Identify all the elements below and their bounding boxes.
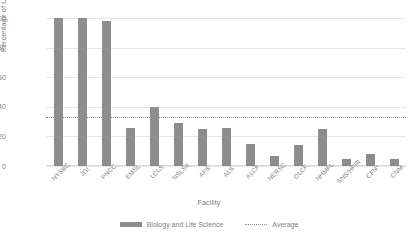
y-axis-tick-label: 0	[0, 163, 6, 170]
chart-legend: Biology and Life Science Average	[0, 221, 418, 228]
legend-item-average: Average	[245, 221, 298, 228]
bar-slot	[166, 18, 190, 166]
y-axis-tick-label: 80	[0, 44, 6, 51]
bar-als	[222, 128, 231, 166]
bar-lcls	[150, 107, 159, 166]
plot-area	[46, 18, 406, 166]
y-axis-tick-label: 40	[0, 103, 6, 110]
bar-slot	[238, 18, 262, 166]
bar-slot	[310, 18, 334, 166]
bar-pncc	[102, 21, 111, 166]
bar-slot	[46, 18, 70, 166]
bar-nysbc	[54, 18, 63, 166]
x-axis-title: Facility	[0, 198, 418, 207]
y-axis-tick-label: 20	[0, 133, 6, 140]
legend-label-average: Average	[272, 221, 298, 228]
bar-slot	[70, 18, 94, 166]
x-axis-tick-label: JGI	[78, 165, 90, 177]
bar-slot	[214, 18, 238, 166]
bar-nhmfl	[318, 129, 327, 166]
bar-jgi	[78, 18, 87, 166]
legend-item-bar: Biology and Life Science	[120, 221, 224, 228]
legend-label-bar: Biology and Life Science	[147, 221, 224, 228]
bar-slot	[334, 18, 358, 166]
bar-nslsii	[174, 123, 183, 166]
bar-slot	[382, 18, 406, 166]
bar-series	[46, 18, 406, 166]
y-axis-tick-label: 60	[0, 74, 6, 81]
average-line	[46, 117, 406, 118]
bar-alcf	[246, 144, 255, 166]
bar-emsl	[126, 128, 135, 166]
bar-chart: Percentage of Users 020406080100 NYSBCJG…	[0, 0, 418, 241]
y-axis-tick-label: 100	[0, 15, 6, 22]
bar-slot	[358, 18, 382, 166]
bar-slot	[94, 18, 118, 166]
bar-slot	[262, 18, 286, 166]
bar-slot	[142, 18, 166, 166]
legend-dash-icon	[245, 224, 267, 225]
bar-aps	[198, 129, 207, 166]
bar-slot	[190, 18, 214, 166]
bar-slot	[118, 18, 142, 166]
bar-olcf	[294, 145, 303, 166]
bar-slot	[286, 18, 310, 166]
legend-swatch-icon	[120, 222, 142, 227]
